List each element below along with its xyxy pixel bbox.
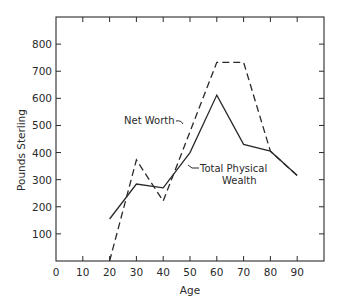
x-tick-label: 20	[103, 266, 116, 278]
annotation-net-worth: Net Worth	[124, 115, 183, 126]
x-axis-title: Age	[180, 284, 200, 296]
line-chart: 1002003004005006007008000102030405060708…	[0, 0, 338, 302]
x-tick-label: 80	[264, 266, 277, 278]
tpw-label-line2: Wealth	[222, 175, 257, 186]
x-tick-label: 50	[183, 266, 196, 278]
y-tick-label: 800	[32, 38, 52, 50]
series-lines	[110, 62, 298, 261]
annotation-total-physical-wealth: Total Physical Wealth	[188, 163, 267, 186]
y-tick-label: 700	[32, 65, 52, 77]
net-worth-leader-arrow	[176, 121, 183, 124]
y-axis-title: Pounds Sterling	[15, 109, 27, 191]
plot-border	[56, 17, 324, 261]
x-tick-label: 70	[237, 266, 250, 278]
x-tick-label: 40	[157, 266, 170, 278]
x-tick-label: 10	[76, 266, 89, 278]
x-tick-label: 60	[210, 266, 223, 278]
y-tick-label: 200	[32, 201, 52, 213]
tpw-leader-arrow	[188, 165, 199, 168]
tpw-label-line1: Total Physical	[199, 163, 267, 174]
total-physical-wealth-line	[110, 95, 298, 219]
y-tick-label: 600	[32, 92, 52, 104]
axis-ticks: 1002003004005006007008000102030405060708…	[32, 17, 324, 278]
y-tick-label: 500	[32, 119, 52, 131]
net-worth-label: Net Worth	[124, 115, 175, 126]
net-worth-line	[110, 62, 298, 261]
x-tick-label: 30	[130, 266, 143, 278]
x-tick-label: 0	[53, 266, 60, 278]
x-tick-label: 90	[291, 266, 304, 278]
plot-frame	[56, 17, 324, 261]
y-tick-label: 400	[32, 147, 52, 159]
y-tick-label: 100	[32, 228, 52, 240]
y-tick-label: 300	[32, 174, 52, 186]
